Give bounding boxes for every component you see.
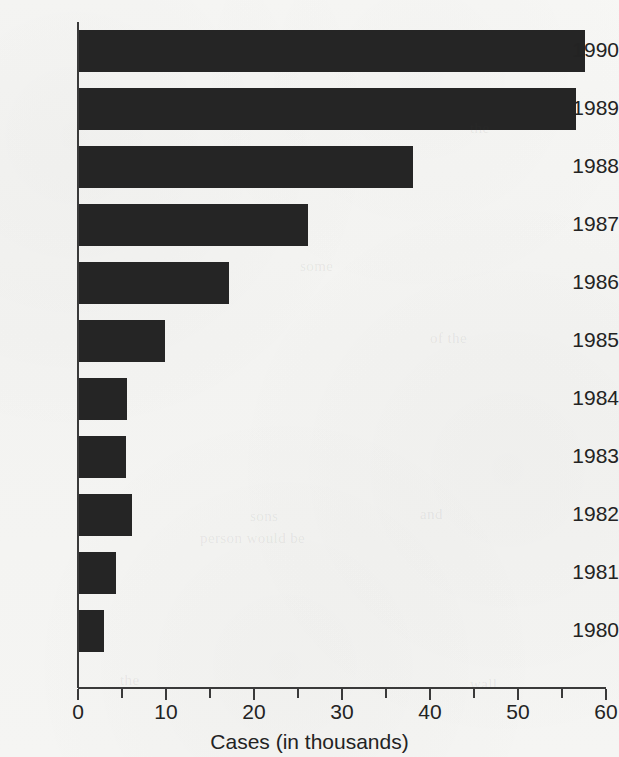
- bar-1988: [79, 146, 413, 188]
- bleed-text-3: sons: [250, 508, 278, 525]
- y-label-1980: 1980: [553, 618, 619, 642]
- bleed-text-4: and: [420, 506, 443, 523]
- bar-1985: [79, 320, 165, 362]
- y-label-1989: 1989: [553, 96, 619, 120]
- bar-1984: [79, 378, 127, 420]
- x-tick-label-60: 60: [576, 700, 619, 724]
- x-tick-10: [165, 689, 167, 700]
- bar-chart: 0102030405060 19901989198819871986198519…: [0, 0, 619, 757]
- bar-1981: [79, 552, 116, 594]
- bleed-text-2: of the: [430, 330, 467, 347]
- x-tick-30: [341, 689, 343, 700]
- x-axis-title: Cases (in thousands): [0, 730, 619, 754]
- x-tick-label-20: 20: [224, 700, 284, 724]
- bleed-text-1: some: [300, 258, 333, 275]
- x-tick-15: [209, 689, 211, 698]
- x-tick-label-40: 40: [400, 700, 460, 724]
- x-tick-5: [121, 689, 123, 698]
- x-tick-60: [605, 689, 607, 700]
- bar-1989: [79, 88, 576, 130]
- bar-1990: [79, 30, 585, 72]
- x-tick-20: [253, 689, 255, 700]
- x-tick-25: [297, 689, 299, 698]
- x-tick-45: [473, 689, 475, 698]
- x-tick-0: [77, 689, 79, 700]
- x-tick-50: [517, 689, 519, 700]
- bleed-text-5: person would be: [200, 530, 305, 547]
- bar-1986: [79, 262, 229, 304]
- bar-1980: [79, 610, 104, 652]
- y-label-1987: 1987: [553, 212, 619, 236]
- y-label-1983: 1983: [553, 444, 619, 468]
- x-tick-55: [561, 689, 563, 698]
- x-tick-label-10: 10: [136, 700, 196, 724]
- y-label-1982: 1982: [553, 502, 619, 526]
- bar-1983: [79, 436, 126, 478]
- x-tick-label-0: 0: [48, 700, 108, 724]
- y-label-1985: 1985: [553, 328, 619, 352]
- y-label-1988: 1988: [553, 154, 619, 178]
- x-tick-label-50: 50: [488, 700, 548, 724]
- y-label-1981: 1981: [553, 560, 619, 584]
- y-label-1986: 1986: [553, 270, 619, 294]
- y-label-1984: 1984: [553, 386, 619, 410]
- y-label-1990: 1990: [553, 38, 619, 62]
- x-tick-label-30: 30: [312, 700, 372, 724]
- bar-1982: [79, 494, 132, 536]
- bar-1987: [79, 204, 308, 246]
- x-tick-35: [385, 689, 387, 698]
- x-tick-40: [429, 689, 431, 700]
